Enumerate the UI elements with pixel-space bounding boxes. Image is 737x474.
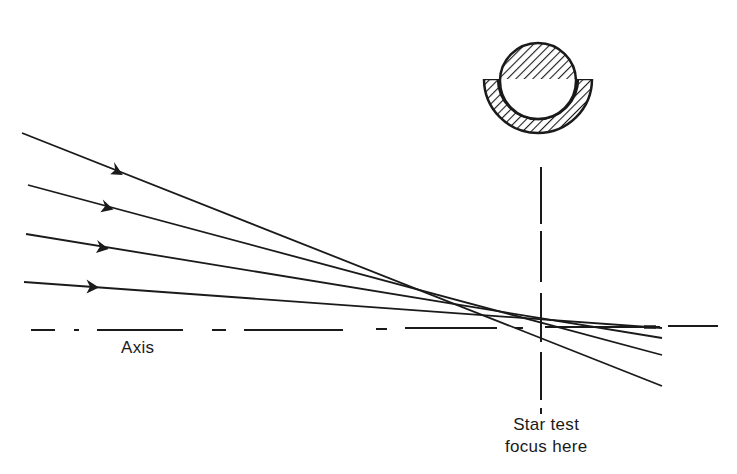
ray-4 <box>24 282 662 328</box>
diagram-canvas: Axis Star test focus here <box>0 0 737 474</box>
arrow-icons <box>86 162 127 294</box>
arrow-icon <box>109 162 126 179</box>
star-image-icon <box>484 43 592 133</box>
focus-label: Star test focus here <box>505 414 587 458</box>
ray-3 <box>26 234 662 338</box>
focus-label-line1: Star test <box>505 414 587 436</box>
axis-label: Axis <box>121 338 154 358</box>
focus-label-line2: focus here <box>505 436 587 458</box>
ray-diagram <box>0 0 737 474</box>
